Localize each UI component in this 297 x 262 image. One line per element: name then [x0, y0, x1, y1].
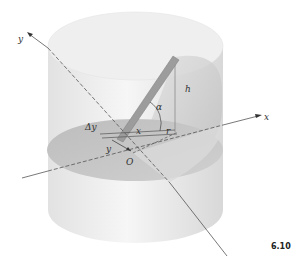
label-alpha: α: [156, 102, 162, 112]
cylinder-diagram: y x h α Δy y x r O 6.10: [0, 0, 297, 262]
label-y-offset: y: [105, 144, 112, 154]
label-x: x: [136, 126, 141, 136]
label-origin: O: [126, 157, 134, 167]
label-h: h: [185, 84, 191, 94]
label-delta-y: Δy: [84, 122, 97, 132]
label-r: r: [166, 126, 171, 136]
figure-number: 6.10: [271, 242, 291, 251]
label-x-axis: x: [264, 112, 269, 122]
label-y-axis: y: [17, 34, 24, 44]
